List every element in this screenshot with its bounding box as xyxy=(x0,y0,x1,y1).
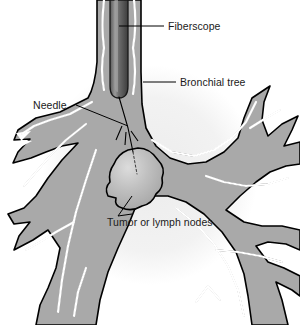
fiberscope-instrument xyxy=(110,0,128,98)
bronchoscopy-illustration: Fiberscope Bronchial tree Needle Tumor o… xyxy=(0,0,300,325)
label-needle: Needle xyxy=(33,99,67,111)
fiberscope-tube xyxy=(110,0,128,98)
label-bronchial-tree: Bronchial tree xyxy=(180,76,246,88)
fiberscope-highlight xyxy=(115,0,119,92)
label-tumor-or-lymph-nodes: Tumor or lymph nodes xyxy=(107,216,213,228)
illustration-container: Fiberscope Bronchial tree Needle Tumor o… xyxy=(0,0,300,325)
label-fiberscope: Fiberscope xyxy=(168,20,221,32)
